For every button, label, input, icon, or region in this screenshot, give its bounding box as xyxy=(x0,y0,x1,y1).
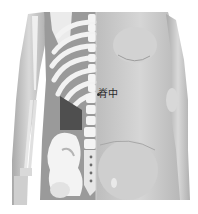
acupoint-label: 脊中 xyxy=(98,88,118,100)
skeleton xyxy=(40,12,96,200)
anatomy-illustration xyxy=(0,0,198,214)
